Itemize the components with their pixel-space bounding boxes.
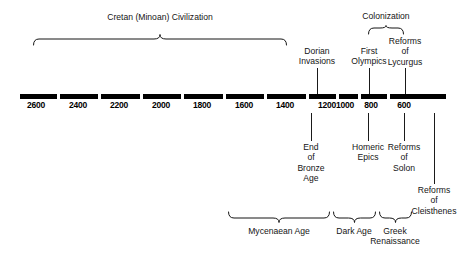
brace-label-line: Renaissance	[370, 236, 420, 246]
brace-label-dark-age: Dark Age	[336, 226, 371, 236]
event-label-line: of	[412, 195, 457, 205]
brace-label-greek-renaissance: GreekRenaissance	[370, 226, 420, 247]
brace-label-cretan-minoan-civilization: Cretan (Minoan) Civilization	[107, 12, 213, 22]
event-label-line: End	[297, 142, 324, 152]
event-label-homeric-epics: HomericEpics	[352, 142, 384, 163]
event-label-reforms-of-solon: ReformsofSolon	[388, 142, 420, 173]
event-label-line: Lycurgus	[388, 57, 423, 67]
axis-tick-label-2200: 2200	[104, 100, 134, 110]
axis-tick-label-1400: 1400	[270, 100, 300, 110]
event-label-line: Dorian	[299, 46, 335, 56]
leader-line-reforms-of-lycurgus	[405, 68, 406, 94]
event-label-line: Olympics	[351, 56, 386, 66]
brace-label-colonization: Colonization	[362, 11, 409, 21]
axis-tick-label-2000: 2000	[146, 100, 176, 110]
axis-tick-gap	[140, 94, 143, 99]
leader-line-end-of-bronze-age	[311, 113, 312, 141]
axis-tick-gap	[264, 94, 267, 99]
event-label-line: Homeric	[352, 142, 384, 152]
axis-tick-gap	[98, 94, 101, 99]
event-label-line: Solon	[388, 163, 420, 173]
event-label-line: Age	[297, 173, 324, 183]
brace-colonization	[368, 25, 404, 34]
event-label-first-olympics: FirstOlympics	[351, 46, 386, 67]
brace-curve	[380, 212, 412, 223]
axis-tick-label-2600: 2600	[21, 100, 51, 110]
event-label-line: Epics	[352, 152, 384, 162]
brace-dark-age	[333, 212, 376, 223]
axis-tick-label-1600: 1600	[229, 100, 259, 110]
event-label-end-of-bronze-age: EndofBronzeAge	[297, 142, 324, 184]
event-label-line: Reforms	[388, 36, 423, 46]
brace-greek-renaissance	[379, 212, 412, 223]
axis-tick-gap	[358, 94, 361, 99]
brace-curve	[34, 35, 287, 46]
brace-cretan-minoan-civilization	[33, 34, 287, 45]
event-label-line: Reforms	[388, 142, 420, 152]
timeline-figure: 2600240022002000180016001400120010008006…	[0, 0, 468, 262]
axis-tick-label-800: 800	[356, 100, 386, 110]
brace-label-line: Greek	[370, 226, 420, 236]
axis-tick-label-2400: 2400	[63, 100, 93, 110]
axis-tick-gap	[57, 94, 60, 99]
brace-curve	[229, 212, 330, 223]
leader-line-dorian-invasions	[317, 68, 318, 94]
axis-tick-gap	[181, 94, 184, 99]
leader-line-first-olympics	[369, 68, 370, 94]
timeline-axis-bar	[20, 94, 446, 99]
event-label-line: of	[388, 46, 423, 56]
event-label-line: of	[297, 152, 324, 162]
brace-label-mycenaean-age: Mycenaean Age	[248, 226, 310, 236]
event-label-line: Cleisthenes	[412, 206, 457, 216]
event-label-dorian-invasions: DorianInvasions	[299, 46, 335, 67]
axis-tick-label-1800: 1800	[187, 100, 217, 110]
brace-curve	[334, 212, 376, 223]
axis-tick-label-600: 600	[389, 100, 419, 110]
event-label-reforms-of-lycurgus: ReformsofLycurgus	[388, 36, 423, 67]
brace-mycenaean-age	[228, 212, 330, 223]
leader-line-homeric-epics	[368, 113, 369, 141]
leader-line-reforms-of-cleisthenes	[434, 113, 435, 184]
event-label-line: First	[351, 46, 386, 56]
leader-line-reforms-of-solon	[404, 113, 405, 141]
brace-curve	[369, 26, 404, 35]
axis-tick-gap	[223, 94, 226, 99]
event-label-line: of	[388, 152, 420, 162]
event-label-line: Reforms	[412, 185, 457, 195]
axis-tick-gap	[306, 94, 309, 99]
axis-tick-gap	[336, 94, 339, 99]
event-label-reforms-of-cleisthenes: ReformsofCleisthenes	[412, 185, 457, 216]
event-label-line: Invasions	[299, 56, 335, 66]
event-label-line: Bronze	[297, 163, 324, 173]
axis-tick-gap	[387, 94, 390, 99]
